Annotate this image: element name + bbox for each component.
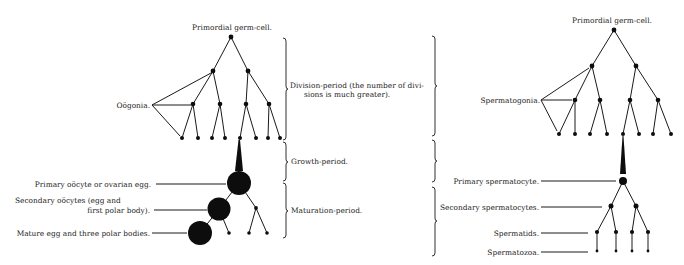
growth-wedge-left bbox=[235, 140, 243, 171]
spermatogonia-label: Spermatogonia. bbox=[480, 96, 540, 105]
spermatogenesis-branches bbox=[541, 30, 671, 252]
spermatozoa-label: Spermatozoa. bbox=[487, 248, 539, 257]
maturation-period-label: Maturation-period. bbox=[291, 206, 362, 215]
gametogenesis-diagram: Primordial germ-cell. bbox=[0, 0, 684, 265]
secondary-oocyte bbox=[208, 198, 231, 221]
spermatogenesis-tree: Primordial germ-cell. bbox=[440, 16, 673, 257]
secondary-oocytes-label-line1: Secondary oöcytes (egg and bbox=[15, 196, 121, 205]
right-braces bbox=[432, 36, 437, 256]
growth-wedge-right bbox=[620, 136, 626, 174]
oogenesis-tree: Primordial germ-cell. bbox=[15, 23, 282, 245]
maturation-brace-left bbox=[283, 183, 288, 238]
primary-spermatocyte-label: Primary spermatocyte. bbox=[453, 177, 539, 186]
left-braces bbox=[283, 38, 288, 238]
primary-oocyte bbox=[227, 171, 251, 195]
growth-period-label: Growth-period. bbox=[291, 157, 348, 166]
primary-oocyte-label: Primary oöcyte or ovarian egg. bbox=[35, 180, 151, 189]
division-period-label-line2: sions is much greater). bbox=[304, 90, 390, 99]
secondary-spermatocytes-label: Secondary spermatocytes. bbox=[440, 203, 539, 212]
mature-egg-label: Mature egg and three polar bodies. bbox=[17, 229, 150, 238]
maturation-brace-right bbox=[432, 187, 437, 256]
spermatogenesis-nodes bbox=[557, 28, 673, 253]
mature-egg bbox=[188, 221, 212, 245]
oogenesis-title: Primordial germ-cell. bbox=[192, 23, 272, 32]
secondary-oocytes-label-line2: first polar body). bbox=[87, 206, 150, 215]
spermatogenesis-title: Primordial germ-cell. bbox=[572, 16, 652, 25]
oogonia-label: Oögonia. bbox=[116, 101, 150, 110]
growth-brace-left bbox=[283, 142, 288, 181]
division-brace-right bbox=[432, 36, 437, 136]
primary-spermatocyte bbox=[619, 177, 627, 185]
division-period-label-line1: Division-period (the number of divi- bbox=[290, 81, 424, 90]
oogenesis-nodes bbox=[180, 35, 282, 245]
spermatids-label: Spermatids. bbox=[494, 229, 539, 238]
division-brace-left bbox=[283, 38, 288, 140]
growth-brace-right bbox=[432, 140, 437, 182]
